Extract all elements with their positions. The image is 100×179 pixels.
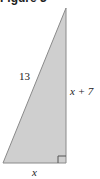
vertical-leg-label: x + 7 (69, 85, 94, 97)
horizontal-leg-label: x (31, 166, 37, 178)
right-triangle-diagram: 13 x + 7 x (0, 0, 100, 179)
right-triangle (3, 8, 66, 163)
hypotenuse-label: 13 (19, 70, 31, 82)
